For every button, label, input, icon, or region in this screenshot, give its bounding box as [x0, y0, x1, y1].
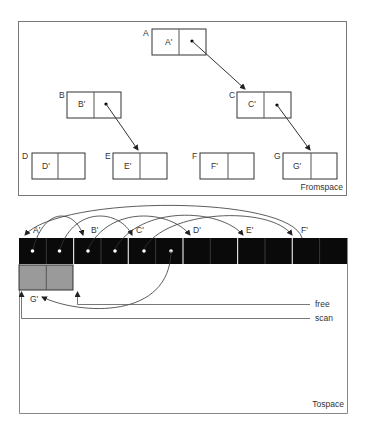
svg-text:D': D' — [42, 161, 50, 171]
label-b-prime: B' — [91, 225, 99, 235]
node-e: E E' — [105, 151, 167, 179]
svg-text:A': A' — [165, 37, 173, 47]
node-b: B B' — [59, 90, 121, 118]
svg-text:D: D — [22, 151, 28, 161]
svg-text:F': F' — [211, 161, 218, 171]
tospace-gray-cells — [19, 265, 73, 290]
fromspace-label: Fromspace — [300, 182, 343, 192]
tospace-frame — [20, 238, 348, 414]
label-d-prime: D' — [193, 225, 201, 235]
edge-a-c — [192, 41, 245, 89]
label-f-prime: F' — [301, 225, 308, 235]
scan-pointer-label: scan — [315, 313, 333, 323]
svg-text:C: C — [229, 90, 235, 100]
node-g: G G' — [274, 151, 337, 179]
node-a: A A' — [143, 28, 206, 55]
scan-pointer-line — [22, 292, 311, 319]
svg-text:E': E' — [124, 161, 132, 171]
svg-text:B': B' — [78, 99, 86, 109]
label-g-prime: G' — [30, 294, 39, 304]
svg-text:F: F — [192, 151, 197, 161]
svg-text:E: E — [105, 151, 111, 161]
edge-b-e — [106, 104, 138, 150]
svg-text:G': G' — [293, 161, 302, 171]
label-c-prime: C' — [136, 225, 144, 235]
tospace-copied-cells — [19, 238, 347, 264]
tospace-label: Tospace — [312, 399, 344, 409]
edge-c-g — [277, 105, 310, 150]
node-c: C C' — [229, 90, 291, 118]
svg-text:A: A — [143, 28, 149, 38]
label-e-prime: E' — [246, 225, 254, 235]
copying-gc-diagram: Fromspace A A' B B' C C' D D' E E' F — [0, 0, 366, 433]
svg-text:G: G — [274, 151, 281, 161]
svg-text:C': C' — [248, 99, 256, 109]
node-d: D D' — [22, 151, 85, 179]
svg-text:B: B — [59, 90, 65, 100]
node-f: F F' — [192, 151, 254, 179]
free-pointer-label: free — [315, 299, 330, 309]
free-pointer-line — [78, 292, 311, 305]
